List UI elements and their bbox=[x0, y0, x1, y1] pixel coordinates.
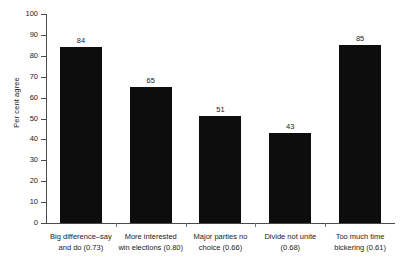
y-tick-label: 80 bbox=[0, 52, 38, 60]
bar bbox=[339, 45, 381, 223]
category-label: Major parties nochoice (0.66) bbox=[186, 231, 256, 253]
x-axis-category-labels: Big difference–sayand do (0.73)More inte… bbox=[46, 231, 395, 261]
x-axis-line bbox=[46, 223, 395, 224]
y-tick-label: 0 bbox=[0, 219, 38, 227]
y-tick-label: 20 bbox=[0, 177, 38, 185]
category-label-line: Major parties no bbox=[186, 231, 256, 242]
bar-value-label: 65 bbox=[147, 76, 155, 85]
bar-value-label: 43 bbox=[286, 122, 294, 131]
bar-group: 85 bbox=[325, 14, 395, 223]
bar-value-label: 51 bbox=[216, 105, 224, 114]
category-label-line: bickering (0.61) bbox=[325, 242, 395, 253]
category-label-line: Divide not unite bbox=[255, 231, 325, 242]
x-tick-mark bbox=[255, 223, 256, 227]
category-label: Divide not unite(0.68) bbox=[255, 231, 325, 253]
x-tick-mark bbox=[325, 223, 326, 227]
bar-value-label: 84 bbox=[77, 36, 85, 45]
x-tick-mark bbox=[186, 223, 187, 227]
y-tick-label: 40 bbox=[0, 135, 38, 143]
bar bbox=[199, 116, 241, 223]
y-tick-label: 30 bbox=[0, 156, 38, 164]
category-label: More interestedwin elections (0.80) bbox=[116, 231, 186, 253]
category-label-line: More interested bbox=[116, 231, 186, 242]
category-label-line: choice (0.66) bbox=[186, 242, 256, 253]
bar bbox=[130, 87, 172, 223]
category-label-line: Too much time bbox=[325, 231, 395, 242]
bar bbox=[269, 133, 311, 223]
category-label-line: and do (0.73) bbox=[46, 242, 116, 253]
category-label-line: (0.68) bbox=[255, 242, 325, 253]
y-tick-label: 90 bbox=[0, 31, 38, 39]
y-tick-label: 70 bbox=[0, 73, 38, 81]
y-tick-label: 50 bbox=[0, 115, 38, 123]
y-tick-mark bbox=[41, 223, 46, 224]
plot-area: 8465514385 bbox=[46, 14, 395, 223]
bar-group: 84 bbox=[46, 14, 116, 223]
category-label: Too much timebickering (0.61) bbox=[325, 231, 395, 253]
y-tick-label: 100 bbox=[0, 10, 38, 18]
bar-group: 43 bbox=[255, 14, 325, 223]
bar bbox=[60, 47, 102, 223]
bar-group: 51 bbox=[186, 14, 256, 223]
bar-value-label: 85 bbox=[356, 34, 364, 43]
y-tick-label: 10 bbox=[0, 198, 38, 206]
bar-chart-figure: Per cent agree 1009080706050403020100 84… bbox=[0, 0, 407, 267]
y-tick-label: 60 bbox=[0, 94, 38, 102]
category-label-line: Big difference–say bbox=[46, 231, 116, 242]
x-tick-mark bbox=[116, 223, 117, 227]
bar-group: 65 bbox=[116, 14, 186, 223]
category-label-line: win elections (0.80) bbox=[116, 242, 186, 253]
category-label: Big difference–sayand do (0.73) bbox=[46, 231, 116, 253]
